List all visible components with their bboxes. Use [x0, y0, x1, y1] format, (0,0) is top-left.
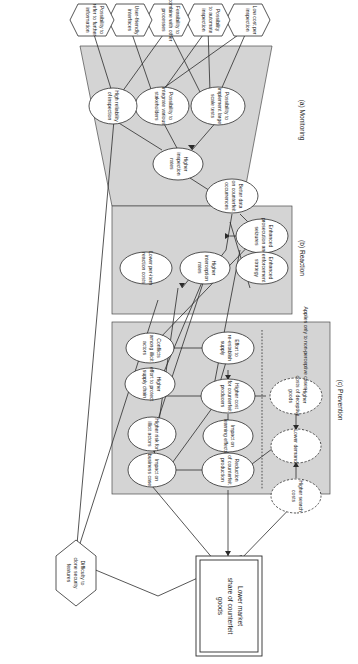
- svg-text:to automate: to automate: [208, 7, 214, 34]
- svg-text:features: features: [66, 564, 72, 583]
- svg-text:among illicit: among illicit: [149, 335, 155, 362]
- svg-text:clone security: clone security: [73, 557, 79, 589]
- svg-text:Higher: Higher: [183, 156, 189, 171]
- svg-text:inspection: inspection: [201, 9, 207, 32]
- svg-text:inspection: inspection: [245, 9, 251, 32]
- requirement-node[interactable]: Possibility to automate inspection: [186, 4, 230, 36]
- section-label-monitoring: (a) Monitoring: [298, 100, 306, 141]
- svg-text:business case: business case: [147, 454, 153, 486]
- svg-text:Higher cost: Higher cost: [234, 383, 240, 409]
- monitoring-node[interactable]: Possibility to implement large scale tes…: [191, 87, 245, 125]
- svg-text:Higher search: Higher search: [298, 480, 304, 512]
- svg-text:Possibility to: Possibility to: [168, 92, 174, 120]
- reaction-node[interactable]: Enhanced enforcement strategy: [236, 252, 288, 284]
- svg-text:Possibility to: Possibility to: [224, 92, 230, 120]
- svg-text:producers: producers: [220, 385, 226, 408]
- prevention-node[interactable]: Impact on business case: [128, 453, 176, 487]
- svg-text:Higher: Higher: [156, 376, 162, 391]
- svg-text:Possibility: Possibility: [215, 9, 221, 32]
- section-label-prevention: (c) Prevention: [336, 379, 344, 420]
- security-requirement-node[interactable]: Difficulty to clone security features: [56, 540, 96, 606]
- svg-text:Possibility to: Possibility to: [99, 6, 105, 34]
- svg-text:costs of deceptive: costs of deceptive: [295, 376, 301, 417]
- svg-text:for counterfeit: for counterfeit: [227, 380, 233, 412]
- prevention-node[interactable]: Reduction of counterfeit production: [202, 453, 254, 487]
- svg-text:actors: actors: [142, 341, 148, 355]
- goal-line: goods: [216, 597, 224, 616]
- svg-text:implement large: implement large: [217, 88, 223, 124]
- svg-text:Enhanced: Enhanced: [268, 257, 274, 280]
- svg-text:strategy: strategy: [254, 259, 260, 278]
- goal-box[interactable]: Lower market share of counterfeit goods: [196, 556, 262, 656]
- reaction-node[interactable]: Higher interception rates: [180, 252, 230, 284]
- svg-text:interception: interception: [204, 255, 210, 282]
- svg-text:Reduction: Reduction: [234, 459, 240, 482]
- rotated-diagram-wrapper: (a) Monitoring (b) Reaction (c) Preventi…: [0, 0, 358, 664]
- svg-text:Conflicts: Conflicts: [156, 338, 162, 358]
- svg-text:prosecution and: prosecution and: [261, 218, 267, 254]
- deceptive-node[interactable]: Lower demand: [271, 429, 321, 463]
- requirement-hexagons: Low cost per inspection Possibility to a…: [70, 0, 270, 42]
- svg-text:combine with other: combine with other: [168, 0, 174, 42]
- svg-text:Higher: Higher: [211, 260, 217, 275]
- svg-text:Effort to: Effort to: [234, 339, 240, 357]
- prevention-node[interactable]: Higher risk for illicit actors: [128, 417, 176, 451]
- requirement-node[interactable]: Low cost per inspection: [226, 4, 270, 36]
- svg-text:Lower demand: Lower demand: [293, 429, 299, 463]
- prevention-node[interactable]: Conflicts among illicit actors: [126, 333, 174, 363]
- svg-text:on counterfeit: on counterfeit: [231, 181, 237, 212]
- deceptive-node[interactable]: Higher search costs: [271, 479, 321, 513]
- svg-text:enforcement: enforcement: [261, 254, 267, 283]
- svg-text:integrate various: integrate various: [161, 87, 167, 125]
- svg-text:supply chain: supply chain: [142, 370, 148, 398]
- monitoring-node[interactable]: Higher inspection rates: [153, 148, 203, 180]
- svg-text:of inspection: of inspection: [107, 92, 113, 121]
- deceptive-case-note: Applies only to non-perceptive cases: [303, 307, 309, 390]
- goal-line: Lower market: [237, 586, 244, 626]
- svg-text:User-friendly: User-friendly: [134, 6, 140, 35]
- svg-text:Lower per-item: Lower per-item: [148, 251, 154, 285]
- svg-text:production: production: [220, 458, 226, 482]
- svg-text:reaction costs: reaction costs: [141, 252, 147, 284]
- requirement-label: Low cost per: [252, 6, 258, 35]
- svg-text:Higher: Higher: [302, 388, 308, 403]
- svg-text:of counterfeit: of counterfeit: [227, 455, 233, 485]
- svg-text:occurrences: occurrences: [224, 182, 230, 210]
- monitoring-node[interactable]: Possibility to integrate various stakeho…: [135, 87, 189, 125]
- requirement-node[interactable]: User-friendly interfaces: [108, 4, 152, 36]
- svg-text:processes: processes: [161, 8, 167, 32]
- svg-text:Impact on: Impact on: [230, 425, 236, 448]
- figure-page: (a) Monitoring (b) Reaction (c) Preventi…: [0, 0, 358, 664]
- svg-text:High reliability: High reliability: [114, 90, 120, 122]
- svg-text:scale tests: scale tests: [210, 94, 216, 119]
- svg-text:goods: goods: [288, 389, 294, 403]
- counterfeit-anti-measures-diagram: (a) Monitoring (b) Reaction (c) Preventi…: [0, 0, 358, 664]
- svg-text:refer to further: refer to further: [92, 4, 98, 37]
- svg-text:re-establish: re-establish: [227, 335, 233, 361]
- svg-text:Higher risk for: Higher risk for: [154, 418, 160, 450]
- svg-text:supply: supply: [220, 341, 226, 356]
- svg-text:seizures: seizures: [254, 227, 260, 246]
- svg-text:information: information: [85, 7, 91, 32]
- svg-text:illicit actors: illicit actors: [147, 422, 153, 447]
- prevention-node[interactable]: Effort to re-establish supply: [202, 332, 254, 364]
- svg-text:Impact on: Impact on: [154, 459, 160, 482]
- svg-text:Better data: Better data: [238, 184, 244, 209]
- svg-text:Difficulty to: Difficulty to: [80, 561, 86, 586]
- requirement-node[interactable]: Possibility to refer to further informat…: [70, 4, 114, 37]
- svg-text:rates: rates: [197, 262, 203, 274]
- svg-text:Feasibility to: Feasibility to: [175, 6, 181, 34]
- prevention-node[interactable]: Higher cost for counterfeit producers: [201, 379, 255, 413]
- requirement-node[interactable]: Feasibility to combine with other proces…: [146, 0, 190, 42]
- svg-text:Enhanced: Enhanced: [268, 225, 274, 248]
- svg-text:stakeholders: stakeholders: [154, 92, 160, 121]
- monitoring-node[interactable]: Better data on counterfeit occurrences: [206, 179, 258, 213]
- svg-text:effort to protect: effort to protect: [149, 367, 155, 402]
- section-label-reaction: (b) Reaction: [298, 240, 306, 276]
- monitoring-node[interactable]: High reliability of inspection: [89, 88, 137, 124]
- svg-text:costs: costs: [291, 490, 297, 502]
- goal-line: share of counterfeit: [227, 578, 234, 635]
- svg-text:rates: rates: [169, 158, 175, 170]
- svg-text:inspection: inspection: [176, 153, 182, 176]
- svg-text:interfaces: interfaces: [127, 9, 133, 32]
